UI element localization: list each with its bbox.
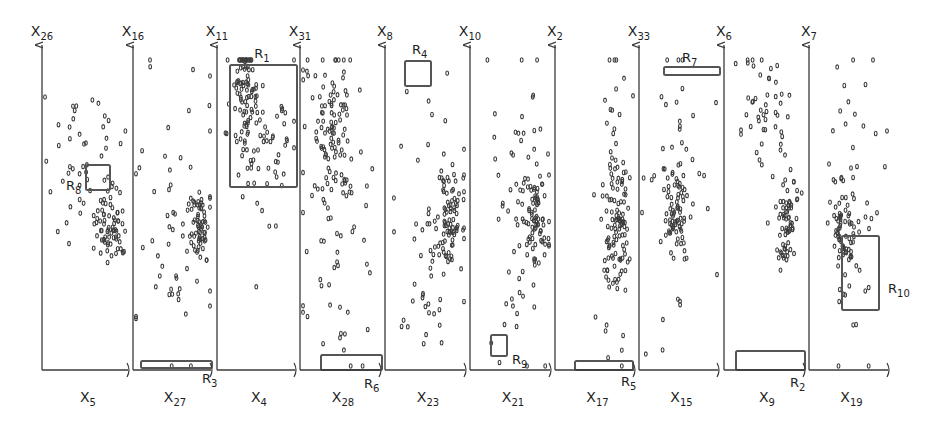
data-point <box>609 150 612 154</box>
data-point <box>623 200 626 204</box>
data-point <box>518 276 521 280</box>
data-point <box>293 58 296 62</box>
data-point <box>343 348 346 352</box>
data-point <box>427 99 430 103</box>
x-axis-label-x5: X5 <box>80 389 96 408</box>
data-point <box>610 226 613 230</box>
data-point <box>689 215 692 219</box>
region-r4[interactable] <box>405 61 431 86</box>
data-point <box>428 207 431 211</box>
data-point <box>198 190 201 194</box>
data-point <box>857 219 860 223</box>
data-point <box>363 238 366 242</box>
data-point <box>246 166 249 170</box>
data-point <box>462 197 465 201</box>
data-point <box>234 133 237 137</box>
data-point <box>254 99 257 103</box>
data-point <box>870 216 873 220</box>
y-axis-label-x6: X6 <box>716 23 732 42</box>
data-point <box>239 108 242 112</box>
data-point <box>611 176 614 180</box>
data-point <box>678 119 681 123</box>
data-point <box>765 109 768 113</box>
data-point <box>795 216 798 220</box>
data-point <box>516 223 519 227</box>
data-point <box>97 101 100 105</box>
data-point <box>181 234 184 238</box>
data-point <box>683 187 686 191</box>
data-point <box>524 176 527 180</box>
data-point <box>182 222 185 226</box>
data-point <box>405 89 408 93</box>
data-point <box>241 154 244 158</box>
x-axis-label-x9: X9 <box>759 389 775 408</box>
data-point <box>610 172 613 176</box>
data-point <box>306 69 309 73</box>
data-point <box>243 124 246 128</box>
data-point <box>533 128 536 132</box>
data-point <box>764 103 767 107</box>
data-point <box>672 256 675 260</box>
data-point <box>350 157 353 161</box>
region-r3[interactable] <box>141 361 212 368</box>
data-point <box>616 286 619 290</box>
data-point <box>179 156 182 160</box>
data-point <box>764 117 767 121</box>
data-point <box>346 139 349 143</box>
data-point <box>673 183 676 187</box>
data-point <box>494 157 497 161</box>
data-point <box>429 248 432 252</box>
data-point <box>840 177 843 181</box>
data-point <box>463 299 466 303</box>
data-point <box>771 174 774 178</box>
data-point <box>752 64 755 68</box>
data-point <box>698 171 701 175</box>
data-point <box>613 127 616 131</box>
data-point <box>236 91 239 95</box>
data-point <box>543 194 546 198</box>
region-r9[interactable] <box>491 335 507 356</box>
data-point <box>440 169 443 173</box>
data-point <box>664 233 667 237</box>
data-point <box>832 129 835 133</box>
data-point <box>782 206 785 210</box>
data-point <box>600 217 603 221</box>
data-point <box>604 98 607 102</box>
data-point <box>246 88 249 92</box>
data-point <box>497 217 500 221</box>
data-point <box>73 108 76 112</box>
region-r2[interactable] <box>736 351 805 370</box>
region-r5[interactable] <box>575 361 633 370</box>
data-point <box>257 166 260 170</box>
data-point <box>518 244 521 248</box>
data-point <box>886 129 889 133</box>
data-point <box>247 181 250 185</box>
data-point <box>437 244 440 248</box>
data-point <box>103 114 106 118</box>
data-point <box>413 282 416 286</box>
data-point <box>339 118 342 122</box>
data-point <box>608 285 611 289</box>
data-point <box>838 299 841 303</box>
data-point <box>615 87 618 91</box>
data-point <box>686 193 689 197</box>
data-point <box>846 203 849 207</box>
data-point <box>319 277 322 281</box>
data-point <box>322 119 325 123</box>
data-point <box>758 158 761 162</box>
data-point <box>68 241 71 245</box>
region-r7[interactable] <box>664 67 720 75</box>
data-point <box>302 78 305 82</box>
data-point <box>624 187 627 191</box>
data-point <box>539 174 542 178</box>
data-point <box>445 191 448 195</box>
data-point <box>302 304 305 308</box>
data-point <box>852 240 855 244</box>
data-point <box>343 153 346 157</box>
data-point <box>833 213 836 217</box>
scatter-plot-chain: R1R2R3R4R5R6R7R8R9R10 X26X16X11X31X8X10X… <box>0 0 941 430</box>
data-point <box>100 154 103 158</box>
data-point <box>135 172 138 176</box>
data-point <box>277 160 280 164</box>
data-point <box>855 264 858 268</box>
